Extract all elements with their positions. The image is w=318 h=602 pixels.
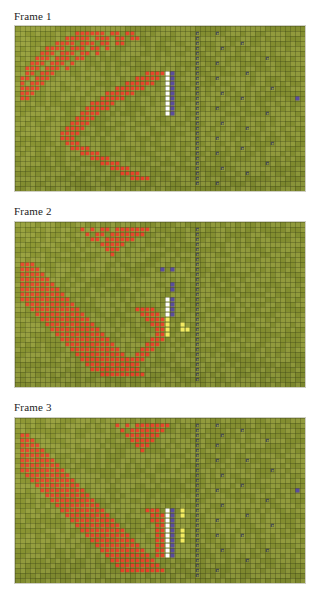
grid-canvas-1 (15, 26, 305, 191)
frame-block-1: Frame 1 (0, 10, 318, 191)
frame-label-3: Frame 3 (0, 401, 318, 414)
frame-block-2: Frame 2 (0, 205, 318, 387)
frame-label-2: Frame 2 (0, 205, 318, 218)
simulation-grid-2[interactable] (15, 222, 305, 387)
frame-block-3: Frame 3 (0, 401, 318, 583)
frame-label-1: Frame 1 (0, 10, 318, 23)
grid-canvas-2 (15, 222, 305, 387)
simulation-grid-1[interactable] (15, 26, 305, 191)
simulation-grid-3[interactable] (15, 418, 305, 583)
grid-canvas-3 (15, 418, 305, 583)
